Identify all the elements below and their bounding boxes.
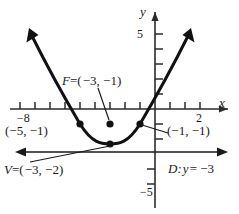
- focus-x-value: −3,: [83, 73, 100, 88]
- latus-right-point: [136, 120, 143, 127]
- directrix-annotation: D: y = −3: [168, 162, 214, 175]
- x-axis-ticks: [20, 102, 200, 109]
- directrix-right-arrow: [217, 148, 228, 157]
- vertex-close-paren: ): [59, 162, 63, 177]
- left-point-annotation: (−5, −1): [5, 124, 48, 137]
- focus-name: F: [62, 73, 70, 88]
- directrix-value: −3: [200, 161, 214, 176]
- x-axis-label: x: [219, 96, 225, 109]
- focus-point: [106, 120, 113, 127]
- parabola-figure: [0, 0, 239, 214]
- vertex-x-value: −3,: [25, 162, 42, 177]
- directrix-equals: =: [190, 161, 197, 176]
- latus-left-point: [76, 120, 83, 127]
- directrix-left-arrow: [15, 148, 26, 157]
- y-axis-arrow: [151, 12, 158, 21]
- directrix-name: D:: [168, 161, 182, 176]
- focus-close-paren: ): [117, 73, 121, 88]
- leader-lines: [30, 88, 168, 162]
- directrix-line: [15, 148, 228, 157]
- vertex-leader: [30, 146, 110, 162]
- focus-leader: [98, 88, 109, 120]
- vertex-open-paren: (: [19, 162, 23, 177]
- right-point-annotation: (−1, −1): [167, 124, 210, 137]
- focus-open-paren: (: [77, 73, 81, 88]
- vertex-annotation: V=( −3, −2): [4, 163, 63, 176]
- directrix-variable: y: [183, 161, 189, 176]
- vertex-name: V: [4, 162, 12, 177]
- focus-y-value: −1: [103, 73, 117, 88]
- y-axis-label: y: [140, 5, 146, 18]
- vertex-y-value: −2: [45, 162, 59, 177]
- focus-annotation: F=( −3, −1): [62, 74, 121, 87]
- y-tick-label-5: 5: [137, 28, 143, 40]
- y-tick-label-neg5: −5: [140, 186, 153, 198]
